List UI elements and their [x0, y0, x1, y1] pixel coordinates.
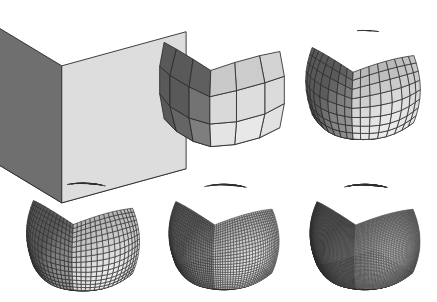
mesh-facet [223, 277, 225, 279]
mesh-facet [213, 265, 215, 268]
mesh-facet [228, 272, 231, 274]
mesh-facet [370, 105, 381, 117]
mesh-facet [77, 280, 81, 284]
mesh-facet [218, 256, 220, 259]
mesh-facet [216, 267, 218, 270]
mesh-facet [81, 272, 86, 277]
mesh-facet [225, 267, 228, 270]
mesh-facet [218, 223, 220, 226]
mesh-facet [221, 222, 223, 225]
mesh-facet [352, 97, 360, 108]
mesh-facet [85, 284, 90, 287]
mesh-facet [81, 281, 86, 285]
mesh-facet [216, 269, 218, 271]
mesh-facet [228, 261, 231, 264]
mesh-facet [218, 272, 220, 274]
mesh-facet [76, 267, 81, 272]
mesh-facet [72, 252, 76, 258]
mesh-facet [228, 275, 231, 277]
mesh-facet [228, 279, 231, 281]
mesh-facet [223, 259, 226, 262]
mesh-facet [225, 272, 228, 274]
mesh-facet [72, 276, 76, 280]
mesh-facet [225, 275, 228, 277]
mesh-facet [215, 262, 217, 265]
mesh-facet [360, 107, 370, 118]
mesh-facet [363, 266, 364, 267]
mesh-facet [228, 264, 231, 267]
mesh-facet [69, 271, 73, 276]
mesh-facet [220, 256, 223, 259]
mesh-facet [366, 268, 367, 269]
mesh-facet [81, 287, 85, 290]
shape-subdiv-5-cell [249, 121, 437, 302]
mesh-facet [85, 288, 90, 291]
mesh-facet [215, 256, 217, 259]
mesh-facet [72, 257, 76, 262]
mesh-facet [367, 270, 368, 271]
mesh-facet [91, 272, 97, 277]
mesh-facet [86, 261, 91, 267]
mesh-facet [81, 267, 86, 272]
mesh-facet [227, 283, 230, 285]
mesh-facet [218, 267, 220, 270]
mesh-facet [223, 267, 226, 270]
mesh-facet [214, 224, 216, 227]
mesh-facet [228, 277, 231, 279]
mesh-facet [225, 270, 228, 273]
mesh-facet [218, 259, 220, 262]
mesh-facet [223, 262, 226, 265]
mesh-facet [215, 259, 217, 262]
mesh-facet [227, 285, 230, 287]
mesh-facet [86, 255, 91, 261]
mesh-facet [81, 262, 86, 267]
mesh-facet [204, 186, 208, 187]
mesh-facet [231, 261, 234, 264]
mesh-facet [215, 265, 217, 268]
mesh-facet [81, 284, 86, 287]
mesh-facet [81, 256, 86, 262]
mesh-facet [225, 258, 228, 261]
mesh-facet [232, 222, 235, 225]
mesh-facet [216, 223, 218, 226]
mesh-facet [220, 259, 223, 262]
mesh-facet [354, 264, 355, 265]
mesh-facet [91, 266, 97, 272]
mesh-facet [76, 257, 81, 263]
mesh-facet [225, 277, 228, 279]
shape-subdiv-5-mesh [310, 184, 420, 289]
mesh-facet [218, 270, 220, 273]
mesh-facet [86, 277, 91, 281]
mesh-facet [230, 275, 233, 277]
mesh-facet [228, 258, 231, 261]
mesh-facet [364, 268, 365, 269]
mesh-facet [366, 269, 367, 270]
mesh-facet [352, 108, 360, 118]
mesh-facet [230, 272, 233, 275]
mesh-facet [213, 269, 215, 271]
mesh-facet [86, 267, 91, 272]
mesh-facet [223, 270, 226, 273]
mesh-facet [228, 267, 231, 270]
mesh-facet [220, 270, 222, 273]
mesh-facet [76, 262, 81, 267]
mesh-facet [230, 277, 233, 279]
mesh-facet [231, 270, 234, 273]
mesh-facet [86, 281, 91, 285]
mesh-facet [213, 267, 215, 270]
mesh-facet [356, 225, 357, 227]
mesh-facet [218, 262, 220, 265]
mesh-facet [76, 251, 81, 257]
mesh-facet [220, 272, 222, 274]
mesh-facet [76, 276, 81, 280]
mesh-facet [76, 272, 81, 277]
mesh-facet [220, 274, 222, 276]
mesh-facet [69, 276, 73, 280]
mesh-facet [69, 280, 73, 284]
mesh-facet [213, 259, 215, 262]
figure-canvas [0, 0, 437, 302]
mesh-facet [230, 279, 233, 281]
mesh-facet [225, 279, 228, 281]
mesh-facet [220, 267, 222, 270]
mesh-facet [230, 281, 233, 283]
